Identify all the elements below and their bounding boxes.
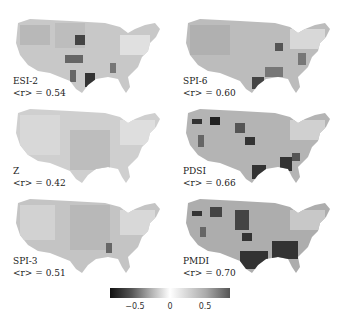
colorbar-tick-pos: 0.5 — [199, 302, 212, 311]
index-name: PDSI — [183, 166, 206, 177]
index-name: SPI-3 — [13, 256, 38, 267]
index-name: ESI-2 — [13, 76, 38, 87]
colorbar — [110, 288, 230, 298]
index-name: PMDI — [183, 256, 209, 267]
map-panel-spi6: SPI-6 <r> = 0.60 — [175, 10, 340, 100]
mean-r-label: <r> = 0.54 — [13, 88, 66, 99]
map-panel-pdsi: PDSI <r> = 0.66 — [175, 100, 340, 190]
mean-r-label: <r> = 0.66 — [183, 178, 236, 189]
index-name: SPI-6 — [183, 76, 208, 87]
mean-r-label: <r> = 0.42 — [13, 178, 66, 189]
colorbar-tick-zero: 0 — [167, 302, 172, 311]
colorbar-tick-neg: −0.5 — [125, 302, 144, 311]
map-panel-esi2: ESI-2 <r> = 0.54 — [5, 10, 170, 100]
mean-r-label: <r> = 0.70 — [183, 268, 236, 279]
index-name: Z — [13, 166, 19, 177]
us-map — [5, 100, 170, 190]
mean-r-label: <r> = 0.51 — [13, 268, 66, 279]
mean-r-label: <r> = 0.60 — [183, 88, 236, 99]
map-panel-pmdi: PMDI <r> = 0.70 — [175, 190, 340, 280]
map-panel-z: Z <r> = 0.42 — [5, 100, 170, 190]
map-panel-spi3: SPI-3 <r> = 0.51 — [5, 190, 170, 280]
